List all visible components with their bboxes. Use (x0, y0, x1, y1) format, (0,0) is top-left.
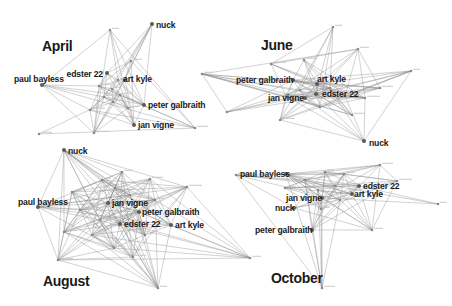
graph-node (320, 208, 323, 211)
minor-node-label (322, 105, 331, 106)
edge (94, 97, 104, 133)
graph-node (93, 132, 96, 135)
minor-node-label (382, 163, 393, 164)
edge (352, 194, 372, 230)
node-label-edster22: edster 22 (67, 69, 104, 79)
graph-node-artkyle (169, 223, 173, 227)
minor-node-label (116, 246, 125, 247)
graph-node (154, 199, 157, 202)
graph-node (89, 109, 92, 112)
minor-node-label (360, 47, 369, 48)
minor-node-label (160, 286, 167, 287)
graph-node (98, 85, 101, 88)
graph-node (319, 106, 322, 109)
node-label-edster22: edster 22 (322, 89, 359, 99)
node-label-janvigne: jan vigne (285, 193, 322, 203)
minor-node-label (152, 177, 163, 178)
graph-node-janvigne (106, 201, 110, 205)
minor-node-label (101, 84, 112, 85)
graph-node (121, 171, 124, 174)
graph-node (249, 257, 252, 260)
edge (364, 98, 365, 141)
edge (120, 95, 134, 125)
edges-layer (38, 24, 438, 288)
edge (304, 60, 317, 84)
graph-node (317, 189, 320, 192)
graph-node (109, 29, 112, 32)
edge (358, 49, 380, 88)
graph-node-edster22 (357, 184, 361, 188)
node-label-petergalbraith: peter galbraith (142, 207, 199, 217)
graph-node (119, 94, 122, 97)
graph-node (101, 179, 104, 182)
graph-node (235, 174, 238, 177)
node-label-edster22: edster 22 (124, 219, 161, 229)
graph-node (194, 127, 197, 130)
graph-node (304, 179, 307, 182)
minor-node-label (320, 188, 331, 189)
graph-node-petergalbraith (142, 103, 146, 107)
edge (90, 110, 94, 133)
edge (280, 120, 364, 141)
edge (42, 85, 90, 110)
node-label-nuck: nuck (275, 203, 295, 213)
graph-node-petergalbraith (137, 210, 141, 214)
node-label-nuck: nuck (68, 146, 88, 156)
graph-node (410, 70, 413, 73)
edge (380, 165, 397, 181)
minor-node-label (324, 286, 335, 287)
graph-node (357, 48, 360, 51)
graph-node (157, 287, 160, 290)
minor-node-label (157, 198, 164, 199)
minor-node-label (327, 170, 334, 171)
minor-node-label (147, 233, 154, 234)
graph-node (324, 171, 327, 174)
edge (64, 150, 130, 195)
node-label-nuck: nuck (369, 138, 389, 148)
graph-node-nuck (62, 148, 66, 152)
minor-node-label (229, 110, 236, 111)
graph-node (144, 234, 147, 237)
minor-node-label (115, 100, 122, 101)
edge (39, 95, 120, 134)
labels-layer: nuckedster 22art kylepaul baylesspeter g… (14, 20, 447, 287)
minor-node-label (287, 186, 296, 187)
minor-node-label (135, 255, 146, 256)
minor-node-label (282, 118, 295, 119)
graph-node (334, 185, 337, 188)
node-label-petergalbraith: peter galbraith (236, 75, 293, 85)
edge (131, 61, 195, 128)
graph-node-edster22 (105, 71, 109, 75)
graph-node-nuck (150, 22, 154, 26)
edge (150, 179, 250, 258)
graph-node (132, 256, 135, 259)
graph-node-edster22 (118, 222, 122, 226)
minor-node-label (112, 28, 119, 29)
minor-node-label (367, 96, 380, 97)
graph-node (38, 133, 41, 136)
minor-node-label (133, 59, 142, 60)
minor-node-label (413, 69, 420, 70)
graph-node (332, 26, 335, 29)
graph-node (364, 97, 367, 100)
graph-node (321, 287, 324, 290)
minor-node-label (66, 230, 77, 231)
edge (42, 85, 104, 97)
node-label-artkyle: art kyle (354, 189, 383, 199)
minor-node-label (197, 126, 208, 127)
panel-title-august: August (43, 273, 90, 289)
edge (110, 30, 144, 105)
graph-node (99, 219, 102, 222)
node-label-janvigne: jan vigne (137, 120, 174, 130)
graph-node (117, 79, 120, 82)
graph-node (127, 107, 130, 110)
graph-node (379, 164, 382, 167)
network-figure: nuckedster 22art kylepaul baylesspeter g… (0, 0, 452, 306)
minor-node-label (132, 193, 145, 194)
graph-node (71, 191, 74, 194)
minor-node-label (189, 185, 202, 186)
minor-node-label (204, 72, 213, 73)
graph-node (303, 59, 306, 62)
graph-node (63, 231, 66, 234)
graph-node-edster22 (314, 92, 318, 96)
